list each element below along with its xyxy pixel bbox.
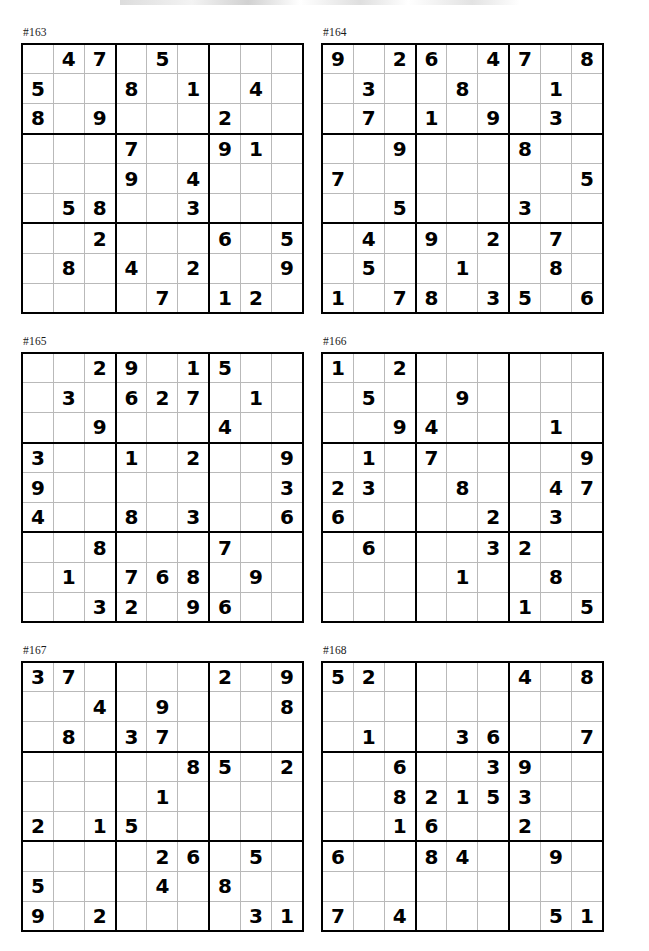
sudoku-cell-empty[interactable] — [240, 502, 271, 532]
sudoku-cell-empty[interactable] — [416, 193, 447, 223]
sudoku-cell-empty[interactable] — [84, 473, 115, 503]
sudoku-cell-empty[interactable] — [22, 841, 53, 871]
sudoku-cell-empty[interactable] — [147, 592, 178, 622]
sudoku-cell-given[interactable]: 9 — [272, 662, 303, 692]
sudoku-cell-empty[interactable] — [478, 871, 509, 901]
sudoku-cell-empty[interactable] — [209, 74, 240, 104]
sudoku-cell-empty[interactable] — [572, 104, 603, 134]
sudoku-cell-given[interactable]: 6 — [116, 383, 147, 413]
sudoku-cell-empty[interactable] — [509, 74, 540, 104]
sudoku-cell-given[interactable]: 6 — [322, 841, 353, 871]
sudoku-cell-empty[interactable] — [240, 752, 271, 782]
sudoku-cell-empty[interactable] — [353, 692, 384, 722]
sudoku-cell-given[interactable]: 8 — [384, 782, 415, 812]
sudoku-cell-given[interactable]: 2 — [509, 811, 540, 841]
sudoku-cell-empty[interactable] — [384, 502, 415, 532]
sudoku-cell-given[interactable]: 4 — [540, 473, 571, 503]
sudoku-cell-given[interactable]: 8 — [53, 253, 84, 283]
sudoku-cell-given[interactable]: 6 — [178, 841, 209, 871]
sudoku-cell-empty[interactable] — [322, 592, 353, 622]
sudoku-cell-empty[interactable] — [540, 532, 571, 562]
sudoku-cell-given[interactable]: 5 — [147, 44, 178, 74]
sudoku-cell-empty[interactable] — [240, 592, 271, 622]
sudoku-cell-empty[interactable] — [240, 871, 271, 901]
sudoku-cell-given[interactable]: 2 — [84, 223, 115, 253]
sudoku-cell-empty[interactable] — [384, 692, 415, 722]
sudoku-cell-given[interactable]: 1 — [322, 353, 353, 383]
sudoku-cell-given[interactable]: 2 — [84, 901, 115, 931]
sudoku-cell-empty[interactable] — [416, 383, 447, 413]
sudoku-cell-given[interactable]: 3 — [353, 473, 384, 503]
sudoku-cell-empty[interactable] — [240, 532, 271, 562]
sudoku-cell-given[interactable]: 9 — [272, 443, 303, 473]
sudoku-cell-given[interactable]: 9 — [478, 104, 509, 134]
sudoku-cell-empty[interactable] — [322, 413, 353, 443]
sudoku-cell-empty[interactable] — [53, 901, 84, 931]
sudoku-cell-given[interactable]: 7 — [572, 473, 603, 503]
sudoku-cell-empty[interactable] — [353, 811, 384, 841]
sudoku-cell-given[interactable]: 3 — [178, 193, 209, 223]
sudoku-cell-empty[interactable] — [272, 164, 303, 194]
sudoku-cell-empty[interactable] — [447, 692, 478, 722]
sudoku-cell-empty[interactable] — [478, 662, 509, 692]
sudoku-cell-given[interactable]: 4 — [447, 841, 478, 871]
sudoku-cell-empty[interactable] — [22, 164, 53, 194]
sudoku-cell-given[interactable]: 5 — [353, 383, 384, 413]
sudoku-cell-given[interactable]: 5 — [272, 223, 303, 253]
sudoku-cell-empty[interactable] — [22, 592, 53, 622]
sudoku-cell-given[interactable]: 4 — [384, 901, 415, 931]
sudoku-cell-empty[interactable] — [272, 871, 303, 901]
sudoku-cell-given[interactable]: 4 — [509, 662, 540, 692]
sudoku-cell-empty[interactable] — [147, 223, 178, 253]
sudoku-cell-empty[interactable] — [22, 193, 53, 223]
sudoku-cell-empty[interactable] — [209, 841, 240, 871]
sudoku-cell-given[interactable]: 1 — [240, 134, 271, 164]
sudoku-cell-empty[interactable] — [147, 164, 178, 194]
sudoku-cell-empty[interactable] — [147, 811, 178, 841]
sudoku-cell-given[interactable]: 4 — [53, 44, 84, 74]
sudoku-cell-empty[interactable] — [147, 473, 178, 503]
sudoku-cell-given[interactable]: 8 — [116, 74, 147, 104]
sudoku-cell-empty[interactable] — [322, 722, 353, 752]
sudoku-cell-empty[interactable] — [84, 841, 115, 871]
sudoku-cell-empty[interactable] — [353, 164, 384, 194]
sudoku-cell-given[interactable]: 7 — [116, 134, 147, 164]
sudoku-cell-empty[interactable] — [147, 443, 178, 473]
sudoku-cell-empty[interactable] — [22, 413, 53, 443]
sudoku-cell-given[interactable]: 1 — [178, 74, 209, 104]
sudoku-cell-empty[interactable] — [416, 692, 447, 722]
sudoku-cell-given[interactable]: 1 — [509, 592, 540, 622]
sudoku-cell-empty[interactable] — [178, 104, 209, 134]
sudoku-cell-given[interactable]: 5 — [572, 592, 603, 622]
sudoku-cell-empty[interactable] — [53, 104, 84, 134]
sudoku-cell-empty[interactable] — [147, 193, 178, 223]
sudoku-cell-empty[interactable] — [209, 164, 240, 194]
sudoku-cell-given[interactable]: 7 — [509, 44, 540, 74]
sudoku-cell-empty[interactable] — [540, 44, 571, 74]
sudoku-cell-empty[interactable] — [322, 752, 353, 782]
sudoku-cell-empty[interactable] — [209, 782, 240, 812]
sudoku-cell-given[interactable]: 6 — [384, 752, 415, 782]
sudoku-cell-given[interactable]: 9 — [384, 413, 415, 443]
sudoku-cell-empty[interactable] — [478, 692, 509, 722]
sudoku-cell-empty[interactable] — [322, 871, 353, 901]
sudoku-cell-empty[interactable] — [240, 223, 271, 253]
sudoku-cell-empty[interactable] — [384, 443, 415, 473]
sudoku-cell-given[interactable]: 8 — [22, 104, 53, 134]
sudoku-cell-given[interactable]: 5 — [22, 74, 53, 104]
sudoku-cell-empty[interactable] — [53, 871, 84, 901]
sudoku-cell-given[interactable]: 8 — [178, 752, 209, 782]
sudoku-cell-empty[interactable] — [22, 223, 53, 253]
sudoku-cell-given[interactable]: 9 — [509, 752, 540, 782]
sudoku-cell-given[interactable]: 5 — [116, 811, 147, 841]
sudoku-cell-empty[interactable] — [240, 193, 271, 223]
sudoku-cell-empty[interactable] — [209, 722, 240, 752]
sudoku-cell-empty[interactable] — [384, 104, 415, 134]
sudoku-cell-empty[interactable] — [322, 692, 353, 722]
sudoku-cell-empty[interactable] — [353, 782, 384, 812]
sudoku-cell-empty[interactable] — [116, 901, 147, 931]
sudoku-cell-given[interactable]: 7 — [53, 662, 84, 692]
sudoku-cell-given[interactable]: 8 — [178, 562, 209, 592]
sudoku-cell-given[interactable]: 3 — [509, 782, 540, 812]
sudoku-cell-empty[interactable] — [509, 223, 540, 253]
